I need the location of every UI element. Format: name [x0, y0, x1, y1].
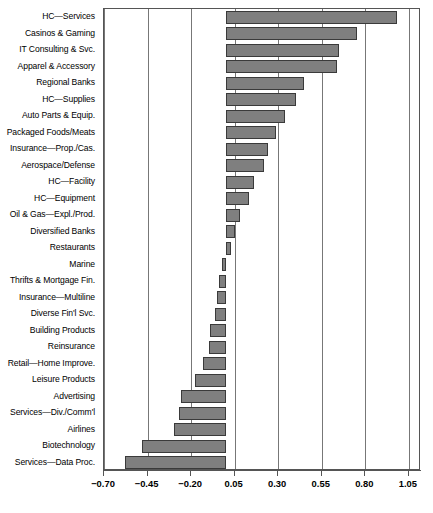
y-axis-label: Retail—Home Improve.	[8, 358, 95, 368]
bar	[219, 275, 226, 288]
y-axis-label: Auto Parts & Equip.	[22, 110, 95, 120]
bar	[226, 60, 337, 73]
bar	[209, 341, 226, 354]
y-axis-label: IT Consulting & Svc.	[19, 44, 95, 54]
y-axis-label: HC—Equipment	[34, 193, 95, 203]
x-axis-tick-label: −0.70	[91, 478, 115, 490]
x-axis-tick-label: −0.45	[135, 478, 159, 490]
x-axis-line	[103, 470, 421, 471]
y-axis-label: Diverse Fin'l Svc.	[31, 308, 95, 318]
y-axis-label: Services—Div./Comm'l	[10, 407, 95, 417]
bar	[203, 357, 226, 370]
bar	[226, 93, 296, 106]
x-axis-tick	[277, 470, 278, 476]
bar	[210, 324, 226, 337]
bar	[226, 176, 254, 189]
y-axis-label: Aerospace/Defense	[21, 160, 95, 170]
y-axis-label: Services—Data Proc.	[15, 457, 95, 467]
x-axis-tick	[234, 470, 235, 476]
bar	[226, 27, 357, 40]
x-axis-tick	[408, 470, 409, 476]
y-axis-label: Leisure Products	[32, 374, 95, 384]
plot-area	[103, 8, 420, 470]
y-axis-label: Reinsurance	[48, 341, 95, 351]
bar	[215, 308, 225, 321]
x-axis	[103, 470, 421, 478]
x-axis-tick	[364, 470, 365, 476]
bar-chart: HC—ServicesCasinos & GamingIT Consulting…	[0, 0, 433, 513]
y-axis-label: HC—Services	[42, 11, 95, 21]
x-axis-tick-label: 0.80	[355, 478, 373, 490]
y-axis-label: Packaged Foods/Meats	[7, 127, 95, 137]
bar	[222, 258, 225, 271]
y-axis-label: Marine	[69, 259, 95, 269]
x-axis-tick-label: 0.55	[312, 478, 330, 490]
x-axis-tick	[321, 470, 322, 476]
x-axis-tick	[103, 470, 104, 476]
bar	[179, 407, 226, 420]
bar	[181, 390, 226, 403]
y-axis-label: Insurance—Multiline	[19, 292, 95, 302]
y-axis-label: Building Products	[30, 325, 95, 335]
y-axis-label: Diversified Banks	[30, 226, 95, 236]
y-axis-label: Advertising	[54, 391, 95, 401]
y-axis-label: Casinos & Gaming	[25, 28, 95, 38]
y-axis-label: HC—Facility	[48, 176, 95, 186]
y-axis-label: Regional Banks	[36, 77, 95, 87]
y-axis-label: Oil & Gas—Expl./Prod.	[10, 209, 95, 219]
x-axis-tick-labels: −0.70−0.45−0.200.050.300.550.801.05	[0, 478, 433, 496]
x-axis-tick-label: 0.30	[268, 478, 286, 490]
bar-series	[104, 9, 419, 469]
y-axis-label: Airlines	[68, 424, 95, 434]
y-axis-category-labels: HC—ServicesCasinos & GamingIT Consulting…	[0, 8, 99, 470]
bar	[226, 242, 231, 255]
y-axis-label: HC—Supplies	[42, 94, 95, 104]
x-axis-tick-label: 1.05	[399, 478, 417, 490]
bar	[226, 143, 268, 156]
bar	[226, 11, 397, 24]
y-axis-label: Apparel & Accessory	[18, 61, 95, 71]
bar	[217, 291, 226, 304]
bar	[226, 110, 285, 123]
y-axis-label: Biotechnology	[42, 440, 95, 450]
y-axis-label: Restaurants	[50, 242, 95, 252]
x-axis-tick	[190, 470, 191, 476]
bar	[142, 440, 226, 453]
bar	[226, 77, 304, 90]
bar	[226, 225, 235, 238]
x-axis-tick-label: −0.20	[178, 478, 202, 490]
bar	[125, 456, 226, 469]
bar	[226, 126, 277, 139]
x-axis-tick-label: 0.05	[225, 478, 243, 490]
bar	[226, 44, 339, 57]
bar	[226, 209, 240, 222]
bar	[226, 192, 249, 205]
x-axis-tick	[147, 470, 148, 476]
y-axis-label: Insurance—Prop./Cas.	[10, 143, 95, 153]
y-axis-label: Thrifts & Mortgage Fin.	[10, 275, 95, 285]
bar	[174, 423, 226, 436]
bar	[226, 159, 264, 172]
bar	[195, 374, 226, 387]
